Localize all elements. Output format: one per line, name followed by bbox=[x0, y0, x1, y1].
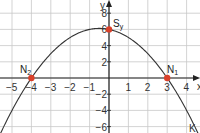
y-axis-arrow-icon bbox=[106, 0, 112, 7]
y-axis-label: y bbox=[100, 0, 105, 11]
parabola-chart: −5−4−3−2−11234 8642−2−4−6 y x K Sy N2 N1 bbox=[0, 0, 200, 133]
y-tick-label: −4 bbox=[96, 105, 108, 116]
y-tick-label: −6 bbox=[96, 122, 108, 133]
x-tick-label: −1 bbox=[84, 82, 96, 93]
x-tick-label: 1 bbox=[125, 82, 131, 93]
point-label-n1: N1 bbox=[167, 64, 178, 76]
x-tick-label: 2 bbox=[145, 82, 151, 93]
curve-label: K bbox=[189, 123, 196, 133]
x-tick-label: −3 bbox=[45, 82, 57, 93]
point-n1 bbox=[164, 75, 170, 81]
y-tick-label: −2 bbox=[96, 89, 108, 100]
x-tick-label: −5 bbox=[6, 82, 18, 93]
x-tick-label: 3 bbox=[164, 82, 170, 93]
y-tick-label: 2 bbox=[101, 57, 107, 68]
point-sy bbox=[106, 26, 112, 32]
point-label-n2: N2 bbox=[20, 64, 31, 76]
x-tick-label: 4 bbox=[184, 82, 190, 93]
x-axis-label: x bbox=[197, 81, 200, 92]
x-tick-label: −2 bbox=[64, 82, 76, 93]
points bbox=[28, 26, 170, 81]
y-tick-label: 4 bbox=[101, 41, 107, 52]
